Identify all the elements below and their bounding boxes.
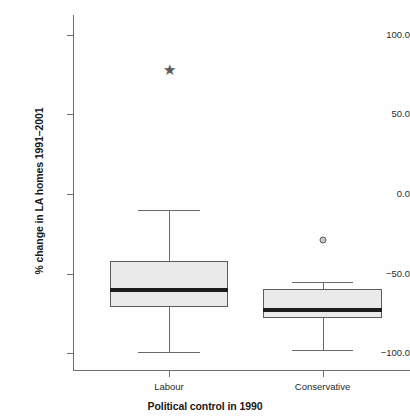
- x-tick-label-conservative: Conservative: [295, 381, 350, 392]
- box-labour: [110, 261, 228, 307]
- y-tick-label: 100.0: [346, 29, 410, 40]
- whisker-cap-lower-conservative: [292, 350, 354, 351]
- whisker-upper-conservative: [323, 282, 324, 289]
- x-tick-mark: [169, 371, 170, 377]
- boxplot-figure: % change in LA homes 1991–2001 100.050.0…: [0, 0, 410, 419]
- y-tick-mark: [67, 114, 73, 115]
- y-tick-mark: [67, 353, 73, 354]
- median-line-labour: [110, 288, 228, 292]
- y-tick-label: −50.0: [346, 268, 410, 279]
- y-axis-line: [73, 15, 74, 371]
- whisker-lower-conservative: [323, 318, 324, 350]
- y-axis-label: % change in LA homes 1991–2001: [33, 66, 45, 316]
- y-tick-mark: [67, 35, 73, 36]
- y-tick-mark: [67, 274, 73, 275]
- x-tick-mark: [323, 371, 324, 377]
- x-axis-line: [73, 370, 410, 371]
- x-tick-label-labour: Labour: [154, 381, 184, 392]
- whisker-lower-labour: [169, 307, 170, 351]
- x-axis-label: Political control in 1990: [0, 400, 410, 412]
- y-tick-label: 50.0: [346, 108, 410, 119]
- whisker-upper-labour: [169, 210, 170, 262]
- y-tick-label: 0.0: [346, 188, 410, 199]
- outlier-circle-conservative: [319, 237, 326, 244]
- whisker-cap-upper-labour: [138, 210, 199, 211]
- whisker-cap-lower-labour: [138, 352, 199, 353]
- median-line-conservative: [263, 308, 382, 312]
- whisker-cap-upper-conservative: [292, 282, 354, 283]
- y-tick-mark: [67, 194, 73, 195]
- box-conservative: [263, 289, 382, 318]
- y-tick-label: −100.0: [346, 347, 410, 358]
- outlier-star-labour: ★: [163, 62, 176, 77]
